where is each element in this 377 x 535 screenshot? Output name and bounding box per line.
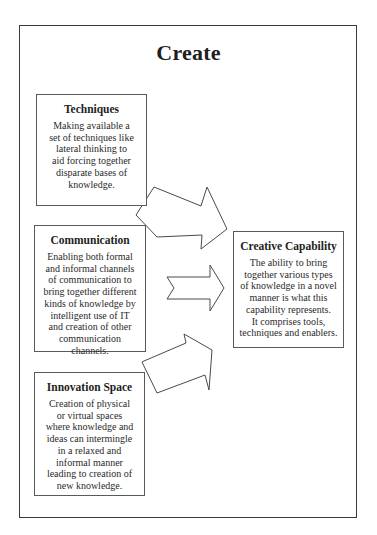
techniques-description: Making available a set of techniques lik… — [37, 120, 146, 190]
creative-capability-description: The ability to bring together various ty… — [234, 257, 343, 339]
text-line: communication — [37, 333, 143, 345]
text-line: or virtual spaces — [37, 410, 142, 422]
communication-heading: Communication — [35, 233, 145, 247]
text-line: and informal channels — [37, 263, 143, 275]
text-line: Making available a — [39, 120, 144, 132]
techniques-box: Techniques Making available a set of tec… — [36, 94, 147, 206]
text-line: and creation of other — [37, 321, 143, 333]
text-line: knowledge. — [39, 179, 144, 191]
creative-capability-box: Creative Capability The ability to bring… — [233, 231, 344, 348]
communication-box: Communication Enabling both formal and i… — [34, 225, 146, 352]
text-line: where knowledge and — [37, 421, 142, 433]
text-line: Enabling both formal — [37, 251, 143, 263]
text-line: capability represents. — [236, 304, 341, 316]
text-line: set of techniques like — [39, 132, 144, 144]
text-line: aid forcing together — [39, 155, 144, 167]
text-line: ideas can intermingle — [37, 433, 142, 445]
text-line: Creation of physical — [37, 398, 142, 410]
text-line: The ability to bring — [236, 257, 341, 269]
text-line: bring together different — [37, 286, 143, 298]
text-line: together various types — [236, 269, 341, 281]
text-line: techniques and enablers. — [236, 327, 341, 339]
text-line: It comprises tools, — [236, 316, 341, 328]
text-line: new knowledge. — [37, 480, 142, 492]
diagram-title: Create — [0, 40, 377, 66]
text-line: lateral thinking to — [39, 143, 144, 155]
communication-description: Enabling both formal and informal channe… — [35, 251, 145, 356]
text-line: disparate bases of — [39, 167, 144, 179]
text-line: informal manner — [37, 457, 142, 469]
text-line: in a relaxed and — [37, 445, 142, 457]
text-line: leading to creation of — [37, 468, 142, 480]
text-line: intelligent use of IT — [37, 310, 143, 322]
text-line: kinds of knowledge by — [37, 298, 143, 310]
creative-capability-heading: Creative Capability — [234, 239, 343, 253]
techniques-heading: Techniques — [37, 102, 146, 116]
text-line: of knowledge in a novel — [236, 280, 341, 292]
innovation-space-box: Innovation Space Creation of physical or… — [34, 372, 145, 496]
text-line: manner is what this — [236, 292, 341, 304]
innovation-space-description: Creation of physical or virtual spaces w… — [35, 398, 144, 492]
text-line: channels. — [37, 345, 143, 357]
text-line: of communication to — [37, 274, 143, 286]
innovation-space-heading: Innovation Space — [35, 380, 144, 394]
